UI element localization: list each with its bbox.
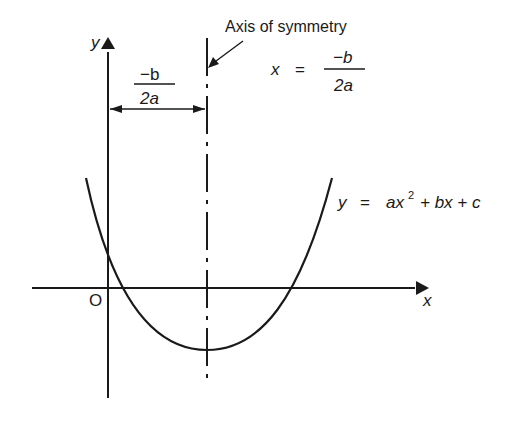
y-axis [101, 37, 115, 398]
axis-equation-lhs: x [270, 60, 280, 79]
curve-equation-lhs: y [337, 193, 348, 212]
arrow-right-icon [193, 105, 205, 113]
arrow-left-icon [110, 105, 122, 113]
distance-fraction: −b 2a [134, 65, 175, 108]
y-axis-arrow-icon [101, 37, 115, 49]
origin-label: O [89, 291, 102, 310]
x-axis-label: x [422, 291, 432, 310]
pointer-arrow-icon [208, 57, 219, 68]
curve-equation-rest: + bx + c [420, 193, 481, 212]
curve-equation-term1: ax [386, 193, 404, 212]
distance-numerator: −b [140, 65, 159, 84]
y-axis-label: y [90, 33, 101, 52]
axis-equation-eq: = [295, 60, 305, 79]
axis-equation: x = −b 2a [270, 48, 365, 95]
parabola-curve [86, 178, 332, 350]
label-pointer [208, 41, 243, 68]
parabola-diagram: y x O Axis of symmetry x = −b 2a −b 2a y… [0, 0, 532, 425]
curve-equation-exponent: 2 [408, 189, 414, 201]
curve-equation-eq: = [360, 193, 370, 212]
distance-denominator: 2a [139, 89, 159, 108]
curve-equation: y = ax 2 + bx + c [337, 189, 481, 212]
axis-equation-denominator: 2a [333, 76, 353, 95]
axis-of-symmetry-label: Axis of symmetry [225, 18, 347, 35]
axis-equation-numerator: −b [333, 48, 352, 67]
